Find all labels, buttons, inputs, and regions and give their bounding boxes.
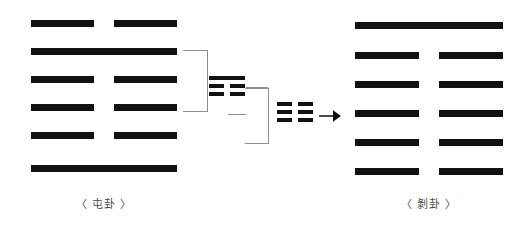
hexagram-line-yang xyxy=(355,22,503,29)
hexagram-line-yin xyxy=(31,104,177,111)
lower-trigram-connector xyxy=(228,114,246,115)
yin-segment-right xyxy=(439,52,503,59)
hexagram-line-yin xyxy=(355,110,503,117)
arrow-right-icon xyxy=(318,105,342,127)
yin-segment-left xyxy=(355,110,419,117)
lower-trigram-bracket xyxy=(245,88,269,144)
yin-segment-left xyxy=(277,110,292,114)
yin-segment-right xyxy=(114,104,177,111)
diagram-canvas: 〈 屯卦 〉 xyxy=(0,0,524,231)
yin-segment-right xyxy=(230,92,245,96)
yin-segment-right xyxy=(298,110,313,114)
result-hexagram xyxy=(355,22,503,174)
yin-segment-left xyxy=(355,52,419,59)
yang-segment xyxy=(209,76,245,80)
yin-segment-right xyxy=(298,102,313,106)
trigram-line-yin xyxy=(277,102,313,106)
yin-segment-right xyxy=(114,20,177,27)
yin-segment-left xyxy=(277,118,292,122)
trigram-line-yin xyxy=(277,110,313,114)
yin-segment-right xyxy=(114,76,177,83)
yin-segment-left xyxy=(355,168,419,175)
yin-segment-right xyxy=(114,132,177,139)
yang-segment xyxy=(31,48,177,55)
source-hexagram xyxy=(31,20,177,172)
hexagram-line-yang xyxy=(31,165,177,172)
hexagram-line-yin xyxy=(31,20,177,27)
hexagram-line-yin xyxy=(31,76,177,83)
hexagram-line-yin xyxy=(355,139,503,146)
kun-trigram xyxy=(277,102,313,126)
source-hexagram-caption: 〈 屯卦 〉 xyxy=(31,198,177,212)
hexagram-line-yin xyxy=(355,52,503,59)
yin-segment-right xyxy=(439,139,503,146)
yang-segment xyxy=(355,22,503,29)
yin-segment-left xyxy=(355,139,419,146)
yin-segment-left xyxy=(277,102,292,106)
yin-segment-left xyxy=(31,20,94,27)
yin-segment-right xyxy=(439,110,503,117)
yin-segment-right xyxy=(230,84,245,88)
trigram-line-yang xyxy=(209,76,245,80)
trigram-line-yin xyxy=(209,92,245,96)
yin-segment-right xyxy=(298,118,313,122)
yin-segment-left xyxy=(31,76,94,83)
yin-segment-right xyxy=(439,168,503,175)
yin-segment-left xyxy=(209,92,224,96)
yang-segment xyxy=(31,165,177,172)
yin-segment-left xyxy=(355,81,419,88)
yin-segment-left xyxy=(31,132,94,139)
hexagram-line-yang xyxy=(31,48,177,55)
result-hexagram-caption: 〈 剝卦 〉 xyxy=(355,198,503,212)
upper-trigram-bracket xyxy=(183,50,208,112)
hexagram-line-yin xyxy=(355,168,503,175)
yin-segment-left xyxy=(209,84,224,88)
yin-segment-left xyxy=(31,104,94,111)
yin-segment-right xyxy=(439,81,503,88)
trigram-line-yin xyxy=(209,84,245,88)
hexagram-line-yin xyxy=(31,132,177,139)
hexagram-line-yin xyxy=(355,81,503,88)
trigram-line-yin xyxy=(277,118,313,122)
gen-trigram xyxy=(209,76,245,100)
